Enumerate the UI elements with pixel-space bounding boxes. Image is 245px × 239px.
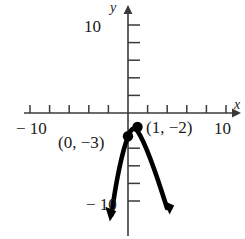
y-axis-arrowhead-icon [124,5,133,14]
graph-figure: y x 10 − 10 − 10 10 (1, −2) (0, −3) [0,0,245,239]
y-axis-max-tick-label: 10 [84,18,101,35]
parabola-curve [111,129,167,215]
vertex-point-label: (1, −2) [146,119,192,136]
x-axis-min-tick-label: − 10 [16,120,47,137]
y-axis-label: y [110,1,116,15]
x-axis-max-tick-label: 10 [214,120,231,137]
point-marker-vertex [132,122,142,132]
y-intercept-point-label: (0, −3) [58,134,104,151]
x-axis-label: x [234,98,240,112]
point-marker-y-intercept [123,131,133,141]
y-axis-min-tick-label: − 10 [86,196,117,213]
